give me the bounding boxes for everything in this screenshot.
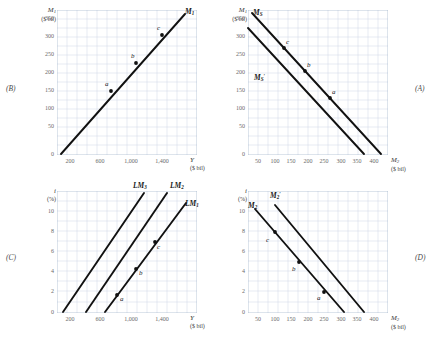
panel-d-point-c [273,230,277,234]
panel-d-x-axis-title: M2 ($ bil) [391,314,406,331]
four-panel-economics-figure: (B) M1 ($ bil) [0,0,435,346]
panel-a-y-symbol: M1 [239,6,247,14]
panel-b-xtick-1400: 1,400 [148,158,176,164]
panel-c-x-axis-title: Y ($ bil) [190,314,205,330]
panel-d: (D) i (%) [215,175,435,346]
panel-d-ytick-6: 6 [219,248,245,254]
panel-a-point-a [328,96,332,100]
panel-c-ytick-6: 6 [28,248,54,254]
panel-b-point-c [160,33,164,37]
panel-a-ytick-150: 150 [219,87,245,93]
panel-b-point-b [134,61,138,65]
panel-c-x-symbol: Y [190,314,194,322]
panel-c-ytick-0: 0 [28,309,54,315]
panel-c-x-units: ($ bil) [190,323,205,329]
panel-b-xtick-1000: 1,000 [117,158,145,164]
panel-b-y-symbol: M1 [48,6,56,14]
panel-d-point-a [322,290,326,294]
panel-b-xtick-200: 200 [58,158,82,164]
panel-d-letter: (D) [415,253,425,262]
panel-d-y-symbol: i [245,187,247,195]
panel-c-ytick-2: 2 [28,288,54,294]
panel-c-letter: (C) [6,253,16,262]
panel-a-plot-area: MS MS′ c b a [248,10,388,155]
panel-b-ytick-300: 300 [28,33,54,39]
panel-b-x-units: ($ bil) [190,165,205,171]
panel-a-x-symbol: M2 [391,156,399,164]
panel-b-label-c: c [157,24,160,32]
panel-a-label-a: a [332,88,336,96]
panel-d-y-axis-title: i (%) [215,187,247,203]
panel-b-ytick-250: 250 [28,51,54,57]
panel-d-x-units: ($ bil) [391,324,406,330]
panel-a-ytick-250: 250 [219,51,245,57]
panel-a-point-b [303,69,307,73]
panel-d-ytick-2: 2 [219,288,245,294]
panel-d-x-symbol: M2 [391,314,399,322]
panel-d-point-b [297,260,301,264]
panel-b-curve-m1: M1 [185,7,194,16]
panel-c-data [57,191,197,313]
panel-d-xtick-50: 50 [250,316,266,322]
panel-d-label-c: c [266,236,269,244]
panel-c-point-a [115,293,119,297]
panel-d-ytick-8: 8 [219,228,245,234]
panel-c-curve-lm1: LM1 [185,199,199,208]
panel-d-label-b: b [292,265,296,273]
panel-b-data [57,10,197,155]
panel-a-label-b: b [307,61,311,69]
panel-a-curve-ms: MS [253,8,263,17]
panel-b-point-a [109,89,113,93]
panel-a-ytick-100: 100 [219,105,245,111]
panel-c-label-a: a [120,295,124,303]
panel-c-ytick-8: 8 [28,228,54,234]
panel-a-xtick-50: 50 [250,158,266,164]
panel-a-xtick-400: 400 [364,158,384,164]
panel-a-ytick-0: 0 [219,151,245,157]
panel-a-ytick-200: 200 [219,69,245,75]
panel-b-ytick-150: 150 [28,87,54,93]
panel-b-ytick-50: 50 [28,123,54,129]
panel-a-label-c: c [286,38,289,46]
panel-d-ytick-0: 0 [219,309,245,315]
panel-b-plot-area: a b c M1 [57,10,197,155]
panel-c-curve-lm3: LM3 [133,181,147,190]
panel-c-label-c: c [157,243,160,251]
panel-c-y-axis-title: i (%) [22,187,56,203]
panel-a-curve-ms-prime: MS′ [254,73,265,82]
panel-c-xtick-200: 200 [58,316,82,322]
panel-b-letter: (B) [6,84,16,93]
panel-c-plot-area: LM3 LM2 LM1 a b c [57,191,197,313]
panel-d-y-units: (%) [238,196,247,202]
panel-b-x-symbol: Y [190,156,194,164]
panel-a: (A) M1 ($ bil) [215,0,435,175]
panel-a-letter: (A) [415,84,425,93]
panel-c: (C) i (%) [0,175,215,346]
panel-b-ytick-0: 0 [28,151,54,157]
panel-b-x-axis-title: Y ($ bil) [190,156,205,172]
panel-c-label-b: b [139,269,143,277]
panel-d-ytick-10: 10 [219,208,245,214]
panel-d-curve-m2-prime: M2′ [270,191,281,200]
panel-a-ytick-300: 300 [219,33,245,39]
panel-c-curve-lm2: LM2 [170,181,184,190]
panel-a-x-units: ($ bil) [391,166,406,172]
panel-b-ytick-200: 200 [28,69,54,75]
panel-b-ytick-350: 350 [28,15,54,21]
panel-c-xtick-1400: 1,400 [148,316,176,322]
panel-b-label-a: a [105,80,109,88]
panel-a-data [248,10,388,155]
panel-c-xtick-1000: 1,000 [117,316,145,322]
panel-c-xtick-600: 600 [88,316,112,322]
panel-b-xtick-600: 600 [88,158,112,164]
panel-c-y-units: (%) [47,196,56,202]
panel-c-y-symbol: i [54,187,56,195]
panel-a-x-axis-title: M2 ($ bil) [391,156,406,173]
panel-c-ytick-4: 4 [28,268,54,274]
panel-c-ytick-10: 10 [28,208,54,214]
panel-d-curve-m2: M2 [248,201,257,210]
panel-d-ytick-4: 4 [219,268,245,274]
panel-a-ytick-50: 50 [219,123,245,129]
panel-c-point-b [134,267,138,271]
panel-b-label-b: b [131,52,135,60]
